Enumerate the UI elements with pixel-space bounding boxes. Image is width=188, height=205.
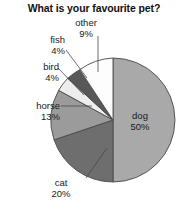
pie-label-fish: fish 4% [8,35,65,56]
pie-label-fish-name: fish [8,35,65,46]
pie-label-other-name: other [58,18,114,29]
pie-label-horse-percent: 13% [2,112,60,123]
pie-label-cat: cat 20% [38,178,84,199]
pie-label-horse-name: horse [2,101,60,112]
pie-label-dog-name: dog [120,111,160,122]
pie-label-cat-percent: 20% [38,189,84,200]
pie-label-other: other 9% [58,18,114,39]
pie-label-bird-name: bird [2,62,59,73]
chart-figure: What is your favourite pet? other 9% fis… [0,0,188,205]
pie-label-bird: bird 4% [2,62,59,83]
pie-label-cat-name: cat [38,178,84,189]
pie-label-dog: dog 50% [120,111,160,132]
pie-label-dog-percent: 50% [120,122,160,133]
pie-label-fish-percent: 4% [8,46,65,57]
pie-label-horse: horse 13% [2,101,60,122]
pie-label-other-percent: 9% [58,29,114,40]
pie-label-bird-percent: 4% [2,73,59,84]
